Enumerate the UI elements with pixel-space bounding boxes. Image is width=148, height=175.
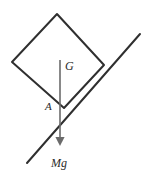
label-weight-force: Mg <box>50 156 67 170</box>
diagram-canvas: G A Mg <box>0 0 148 175</box>
physics-diagram-figure: G A Mg <box>0 0 148 175</box>
inclined-plane-line <box>27 34 140 163</box>
label-center-of-gravity: G <box>65 59 74 73</box>
label-contact-point: A <box>44 100 52 112</box>
square-block <box>12 14 104 108</box>
